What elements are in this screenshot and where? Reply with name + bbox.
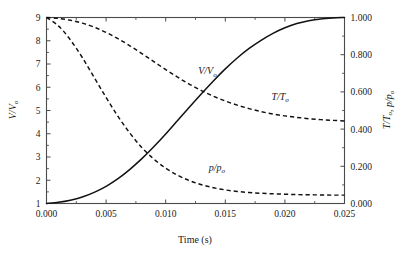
x-tick-label: 0.015 [215,209,237,219]
y-tick-label-left: 9 [36,13,41,23]
y-tick-label-left: 3 [36,152,41,162]
y-tick-label-right: 0.800 [351,50,373,60]
chart-figure: 0.0000.0050.0100.0150.0200.0251234567890… [0,0,399,262]
chart-svg: 0.0000.0050.0100.0150.0200.0251234567890… [0,0,399,262]
y-tick-label-right: 1.000 [351,13,373,23]
y-tick-label-right: 0.000 [351,199,373,209]
y-tick-label-left: 7 [36,59,41,69]
x-tick-label: 0.010 [155,209,177,219]
y-tick-label-right: 0.600 [351,87,373,97]
y-tick-label-left: 8 [36,36,41,46]
y-tick-label-right: 0.400 [351,125,373,135]
y-tick-label-left: 5 [36,106,41,116]
y-tick-label-left: 2 [36,176,41,186]
x-tick-label: 0.025 [334,209,356,219]
x-tick-label: 0.000 [36,209,58,219]
chart-background [0,0,399,262]
x-tick-label: 0.005 [95,209,117,219]
y-tick-label-right: 0.200 [351,162,373,172]
y-tick-label-left: 1 [36,199,41,209]
y-tick-label-left: 6 [36,83,41,93]
x-axis-title: Time (s) [178,234,212,246]
y-tick-label-left: 4 [36,129,41,139]
x-tick-label: 0.020 [274,209,296,219]
